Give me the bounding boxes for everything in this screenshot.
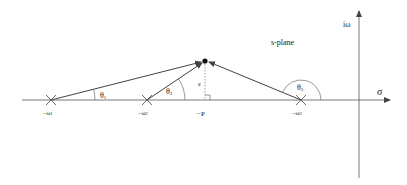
pole-label-2: −ω2 (138, 110, 148, 116)
pole-label-3: −ω3 (292, 110, 302, 116)
angle-arc-2 (179, 79, 186, 100)
pole-label-1: −ω1 (43, 110, 53, 116)
angle-label-3: θ3 (297, 83, 304, 92)
height-label: ε (198, 80, 201, 88)
vector-1 (51, 62, 201, 100)
imaginary-axis-label: iω (343, 20, 351, 29)
vector-3 (209, 62, 301, 100)
foot-label: −P (197, 110, 205, 118)
test-point (202, 58, 207, 63)
right-angle-marker (205, 95, 210, 100)
angle-label-2: θ2 (166, 87, 173, 96)
angle-arc-1 (94, 89, 95, 100)
s-plane-diagram: σ iω s-plane θ1 θ2 θ3 ε −ω1 −ω2 −ω3 −P (0, 0, 407, 185)
plane-title: s-plane (271, 38, 295, 47)
real-axis-label: σ (377, 86, 383, 97)
angle-label-1: θ1 (100, 91, 107, 100)
